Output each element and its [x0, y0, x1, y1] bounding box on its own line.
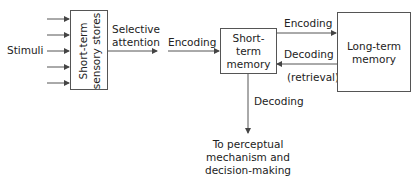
stimuli-label: Stimuli [7, 44, 43, 57]
output-line1: To perceptual [198, 138, 298, 151]
output-line2: mechanism and [198, 151, 298, 164]
sensory-stores-box: Short-term sensory stores [70, 10, 108, 90]
stm-line1: Short- [221, 32, 276, 45]
long-term-memory-box: Long-term memory [337, 12, 411, 92]
stm-line2: term [221, 45, 276, 58]
ltm-line2: memory [338, 53, 410, 66]
output-line3: decision-making [198, 164, 298, 177]
sensory-stores-line2: sensory stores [90, 11, 103, 91]
sensory-stores-line1: Short-term [77, 11, 90, 91]
decoding-down-label: Decoding [254, 95, 304, 108]
decoding-from-ltm-label: Decoding [284, 48, 334, 61]
short-term-memory-box: Short- term memory [220, 28, 277, 74]
encoding-to-ltm-label: Encoding [284, 17, 332, 30]
output-label: To perceptual mechanism and decision-mak… [198, 138, 298, 177]
ltm-line1: Long-term [338, 40, 410, 53]
selective-attention-line1: Selective [112, 23, 160, 36]
sensory-stores-label: Short-term sensory stores [77, 11, 103, 91]
stm-line3: memory [221, 58, 276, 71]
selective-attention-label: Selective attention [112, 23, 160, 49]
selective-attention-line2: attention [112, 36, 160, 49]
retrieval-label: (retrieval) [287, 71, 339, 84]
encoding-to-stm-label: Encoding [168, 36, 216, 49]
